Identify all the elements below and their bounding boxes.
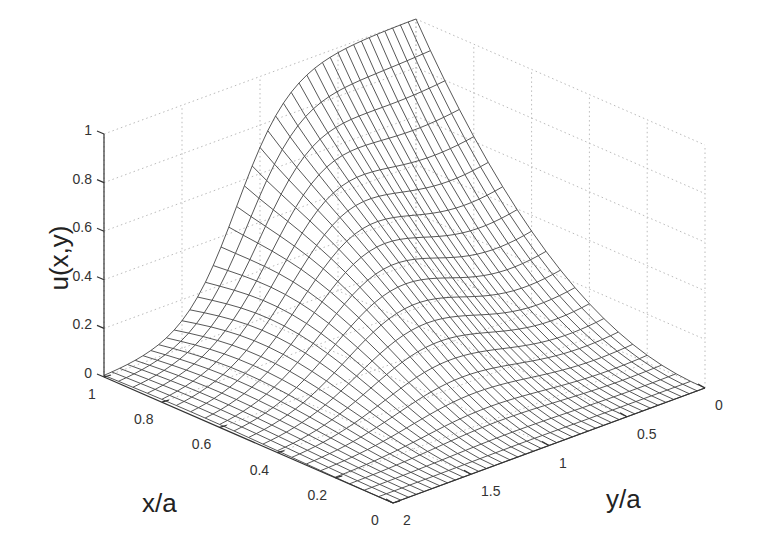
axes <box>97 131 705 503</box>
tick-labels: 00.20.40.60.8100.20.40.60.8100.511.52 <box>73 122 723 528</box>
surface-plot: 00.20.40.60.8100.20.40.60.8100.511.52 u(… <box>0 0 760 551</box>
tick-label: 0.8 <box>134 411 154 427</box>
tick-label: 0.5 <box>637 426 657 442</box>
z-axis-label: u(x,y) <box>44 226 74 291</box>
tick-label: 0.4 <box>73 268 93 284</box>
tick-label: 2 <box>403 512 411 528</box>
y-axis-label: y/a <box>606 484 641 514</box>
tick-label: 0.2 <box>307 487 327 503</box>
tick-label: 0.6 <box>73 219 93 235</box>
tick-label: 0 <box>715 397 723 413</box>
tick-label: 0 <box>371 512 379 528</box>
tick-label: 0.8 <box>73 171 93 187</box>
surface-mesh <box>104 19 705 503</box>
tick-label: 1 <box>84 122 92 138</box>
tick-label: 0.4 <box>250 462 270 478</box>
tick-label: 1 <box>88 386 96 402</box>
tick-label: 0 <box>84 365 92 381</box>
x-axis-label: x/a <box>142 488 177 518</box>
tick-label: 1 <box>559 455 567 471</box>
tick-label: 0.6 <box>192 436 212 452</box>
tick-label: 1.5 <box>481 483 501 499</box>
tick-label: 0.2 <box>73 316 93 332</box>
